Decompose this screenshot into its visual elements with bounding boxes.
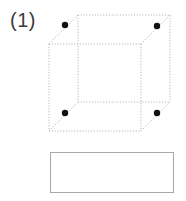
edge-connector-bottom-right xyxy=(141,102,170,131)
dot-bottom-right xyxy=(154,110,160,116)
answer-box[interactable] xyxy=(50,152,174,193)
edge-connector-bottom-left xyxy=(49,102,78,131)
cube-diagram xyxy=(0,0,186,145)
edge-connector-top-right xyxy=(141,15,170,44)
worksheet-page: (1) xyxy=(0,0,186,201)
dot-top-right xyxy=(154,23,160,29)
edge-connector-top-left xyxy=(49,15,78,44)
cube-edges-front xyxy=(49,44,141,131)
dot-bottom-left xyxy=(62,110,68,116)
dot-top-left xyxy=(62,22,68,28)
